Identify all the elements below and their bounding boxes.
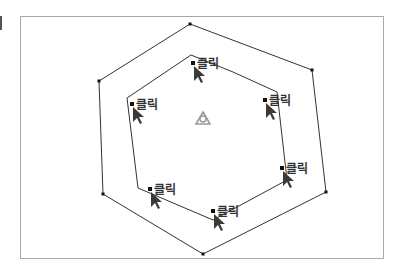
click-point-dot: [211, 209, 215, 213]
click-point-dot: [191, 61, 195, 65]
click-label: 클릭: [197, 58, 219, 70]
click-label: 클릭: [217, 206, 239, 218]
vertex-dot: [102, 193, 105, 196]
click-label: 클릭: [136, 99, 158, 111]
click-point-dot: [130, 102, 134, 106]
click-point-dot: [263, 98, 267, 102]
vertex-dot: [202, 253, 205, 256]
click-cursors: [130, 61, 294, 231]
recycle-triangle-icon: [196, 112, 210, 124]
vertex-dot: [189, 23, 192, 26]
click-point-dot: [148, 187, 152, 191]
click-label: 클릭: [154, 184, 176, 196]
click-label: 클릭: [286, 163, 308, 175]
click-label: 클릭: [269, 95, 291, 107]
click-point-dot: [280, 166, 284, 170]
diagram-canvas: [0, 0, 401, 271]
vertex-dot: [311, 69, 314, 72]
vertex-dot: [325, 191, 328, 194]
vertex-dot: [98, 80, 101, 83]
